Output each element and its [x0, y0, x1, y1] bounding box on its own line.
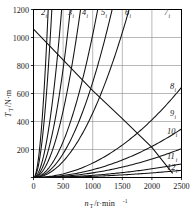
x-tick-label: 500: [57, 182, 69, 191]
curve-label-text: 12: [167, 163, 175, 172]
curve-label-subscript: i: [105, 13, 107, 19]
curve-label-subscript: i: [72, 13, 74, 19]
gridlines: [34, 10, 182, 178]
y-tick-label: 1000: [13, 34, 29, 43]
curve-label-subscript: i: [174, 87, 176, 93]
x-axis-unit: /r·min: [94, 199, 114, 208]
x-axis-symbol: n: [85, 199, 89, 208]
curve-label-subscript: i: [176, 157, 178, 163]
curve-label-subscript: i: [174, 114, 176, 120]
torque-speed-chart: 0500100015002000250020040060080010001200…: [0, 0, 194, 220]
x-tick-label: 2500: [173, 182, 189, 191]
curve-labels: 2i3i4i5i6i7i8i9i10i11i12i: [41, 8, 178, 174]
chart-figure: 0500100015002000250020040060080010001200…: [0, 0, 194, 220]
x-axis-title: nT/r·min-1: [85, 198, 128, 210]
y-axis-subscript: T: [8, 108, 14, 112]
y-tick-label: 400: [17, 118, 29, 127]
curve-label-8: 8i: [170, 82, 176, 93]
x-tick-label: 0: [31, 182, 35, 191]
curve-label-9: 9i: [170, 109, 176, 120]
y-tick-labels: 20040060080010001200: [13, 6, 29, 155]
y-tick-label: 200: [17, 146, 29, 155]
curve-label-subscript: i: [168, 13, 170, 19]
y-tick-label: 1200: [13, 6, 29, 15]
curve-label-subscript: i: [176, 132, 178, 138]
x-tick-label: 2000: [144, 182, 160, 191]
y-axis-unit: /N·m: [4, 89, 13, 107]
curve-label-subscript: i: [86, 13, 88, 19]
y-tick-label: 800: [17, 62, 29, 71]
curve-label-subscript: i: [129, 13, 131, 19]
curve-label-10: 10i: [167, 127, 178, 138]
curve-label-11: 11i: [167, 152, 178, 163]
curve-10: [34, 149, 182, 178]
curve-label-subscript: i: [45, 13, 47, 19]
x-axis-unit-exponent: -1: [123, 198, 128, 204]
x-axis-subscript: T: [90, 203, 94, 209]
y-axis-title: TT/N·m: [4, 89, 14, 117]
curve-label-text: 11: [167, 152, 175, 161]
x-tick-label: 1500: [114, 182, 130, 191]
x-tick-label: 1000: [85, 182, 101, 191]
x-tick-labels: 05001000150020002500: [31, 182, 189, 191]
y-tick-label: 600: [17, 90, 29, 99]
curve-label-text: 10: [167, 127, 176, 136]
